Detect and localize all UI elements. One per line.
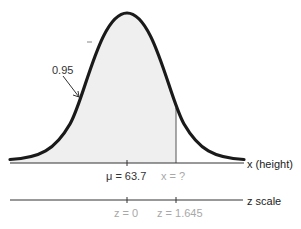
x-unknown-label: x = ? — [161, 170, 185, 182]
area-label: 0.95 — [52, 64, 73, 76]
z0-label: z = 0 — [114, 207, 138, 219]
z-axis-label: z scale — [247, 195, 281, 207]
mu-label: μ = 63.7 — [106, 170, 146, 182]
x-axis-label: x (height) — [247, 158, 293, 170]
normal-distribution-diagram: 0.95 x (height) μ = 63.7 x = ? z scale z… — [0, 0, 301, 229]
z1645-label: z = 1.645 — [157, 207, 203, 219]
area-arrow — [63, 76, 79, 97]
